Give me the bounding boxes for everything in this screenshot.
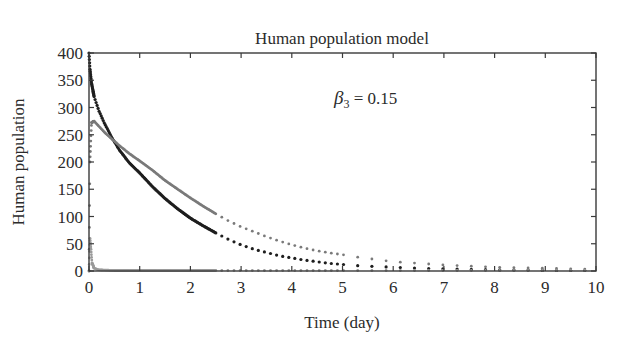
chart-figure: Human population model 012345678910 0501…	[0, 0, 624, 358]
y-tick-label: 100	[58, 208, 84, 227]
plot-frame	[89, 53, 596, 271]
x-axis-label: Time (day)	[304, 313, 379, 332]
data-series-1	[87, 51, 596, 272]
beta-value: = 0.15	[349, 89, 397, 108]
axis-ticks	[89, 53, 596, 271]
x-tick-label: 0	[85, 278, 94, 297]
y-tick-label: 150	[58, 180, 84, 199]
y-axis-tick-labels: 050100150200250300350400	[58, 44, 84, 281]
x-tick-label: 5	[338, 278, 347, 297]
x-axis-tick-labels: 012345678910	[85, 278, 605, 297]
x-tick-label: 7	[440, 278, 449, 297]
y-axis-label: Human population	[9, 98, 28, 226]
x-tick-label: 4	[288, 278, 297, 297]
y-tick-label: 350	[58, 71, 84, 90]
chart-container: Human population model 012345678910 0501…	[0, 0, 624, 358]
x-tick-label: 10	[588, 278, 605, 297]
chart-title: Human population model	[255, 29, 429, 48]
y-tick-label: 0	[75, 262, 84, 281]
x-tick-label: 3	[237, 278, 246, 297]
y-tick-label: 50	[66, 235, 83, 254]
y-tick-label: 250	[58, 126, 84, 145]
x-tick-label: 8	[490, 278, 499, 297]
y-tick-label: 300	[58, 99, 84, 118]
beta-symbol: β	[333, 87, 344, 108]
y-tick-label: 400	[58, 44, 84, 63]
x-tick-label: 1	[135, 278, 144, 297]
series-layer	[87, 51, 596, 272]
x-tick-label: 6	[389, 278, 398, 297]
x-tick-label: 9	[541, 278, 550, 297]
beta-annotation: β3 = 0.15	[333, 87, 397, 111]
y-tick-label: 200	[58, 153, 84, 172]
x-tick-label: 2	[186, 278, 195, 297]
